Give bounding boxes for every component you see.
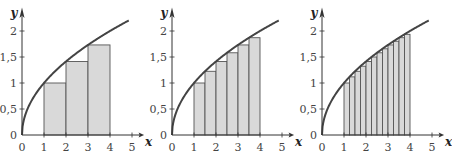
- y-tick-label: 0: [10, 129, 17, 142]
- y-tick-label: 1: [310, 77, 317, 90]
- y-tick-label: 0,5: [150, 103, 168, 116]
- bar: [194, 83, 205, 135]
- y-axis-label: y: [10, 6, 19, 20]
- bar: [227, 53, 238, 135]
- bar: [394, 41, 400, 135]
- x-axis-label: x: [144, 135, 153, 149]
- bar: [383, 49, 389, 135]
- x-tick-label: 3: [85, 141, 92, 154]
- x-tick-label: 1: [41, 141, 48, 154]
- x-tick-label: 1: [191, 141, 198, 154]
- y-tick-label: 0: [160, 129, 167, 142]
- y-axis-label: y: [310, 6, 319, 20]
- y-tick-label: 0,5: [0, 103, 17, 116]
- x-tick-label: 2: [363, 141, 370, 154]
- x-tick-label: 5: [429, 141, 436, 154]
- bar: [388, 45, 394, 135]
- y-tick-label: 1: [10, 77, 17, 90]
- y-tick-label: 2: [10, 25, 17, 38]
- bar: [249, 38, 260, 135]
- y-tick-label: 2: [310, 25, 317, 38]
- bar: [350, 77, 356, 135]
- bar: [361, 66, 367, 135]
- chart-panel-1: 01234500,511,52xy: [0, 6, 153, 154]
- bar: [377, 53, 383, 135]
- y-tick-label: 1,5: [0, 51, 17, 64]
- bar: [355, 71, 361, 135]
- riemann-sum-figure: 01234500,511,52xy01234500,511,52xy012345…: [0, 0, 452, 160]
- bar: [344, 83, 350, 135]
- x-tick-label: 4: [257, 141, 264, 154]
- x-tick-label: 4: [407, 141, 414, 154]
- chart-panel-3: 01234500,511,52xy: [300, 6, 452, 154]
- x-tick-label: 0: [169, 141, 176, 154]
- y-axis-label: y: [160, 6, 169, 20]
- x-axis-label: x: [444, 135, 452, 149]
- x-tick-label: 3: [385, 141, 392, 154]
- x-tick-label: 5: [129, 141, 136, 154]
- y-tick-label: 0: [310, 129, 317, 142]
- bar: [205, 71, 216, 135]
- x-tick-label: 1: [341, 141, 348, 154]
- x-tick-label: 2: [63, 141, 70, 154]
- chart-panel-2: 01234500,511,52xy: [150, 6, 303, 154]
- x-tick-label: 0: [19, 141, 26, 154]
- y-tick-label: 1,5: [150, 51, 168, 64]
- bar: [44, 83, 66, 135]
- bar: [88, 45, 110, 135]
- bar: [238, 45, 249, 135]
- x-tick-label: 3: [235, 141, 242, 154]
- x-tick-label: 2: [213, 141, 220, 154]
- y-tick-label: 0,5: [300, 103, 318, 116]
- x-tick-label: 5: [279, 141, 286, 154]
- bar: [66, 61, 88, 135]
- bar: [399, 38, 405, 135]
- y-tick-label: 1: [160, 77, 167, 90]
- bar: [366, 61, 372, 135]
- bar: [405, 34, 411, 135]
- x-tick-label: 4: [107, 141, 114, 154]
- bar: [372, 57, 378, 135]
- y-tick-label: 2: [160, 25, 167, 38]
- x-tick-label: 0: [319, 141, 326, 154]
- y-tick-label: 1,5: [300, 51, 318, 64]
- bar: [216, 61, 227, 135]
- x-axis-label: x: [294, 135, 303, 149]
